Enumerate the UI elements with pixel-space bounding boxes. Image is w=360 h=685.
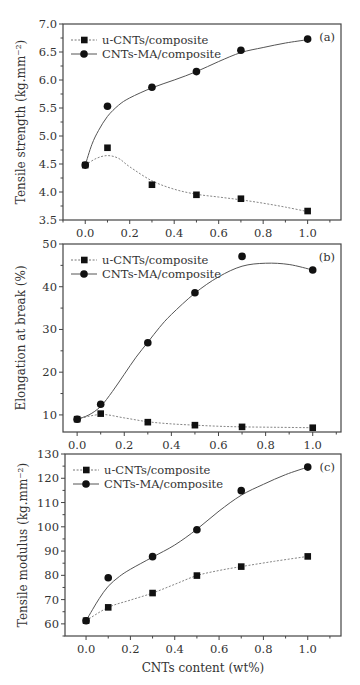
panel-label: (b) bbox=[319, 250, 335, 264]
legend-label: u-CNTs/composite bbox=[102, 253, 209, 267]
y-tick-label: 4.5 bbox=[39, 157, 57, 171]
chart-panel-c: 0.00.20.40.60.81.060708090100110120130Te… bbox=[16, 447, 341, 675]
y-tick-label: 80 bbox=[44, 568, 59, 582]
square-marker bbox=[238, 563, 245, 570]
legend-label: CNTs-MA/composite bbox=[102, 267, 221, 281]
legend-circle-icon bbox=[80, 50, 88, 58]
x-tick-label: 0.6 bbox=[209, 438, 227, 452]
x-tick-label: 0.8 bbox=[254, 226, 272, 240]
y-tick-label: 110 bbox=[37, 496, 59, 510]
x-tick-label: 0.8 bbox=[256, 438, 274, 452]
series-u-cnts-composite bbox=[74, 410, 316, 431]
y-tick-label: 4.0 bbox=[39, 185, 57, 199]
fit-curve bbox=[86, 556, 308, 620]
y-tick-label: 5.0 bbox=[39, 129, 57, 143]
square-marker bbox=[104, 144, 111, 151]
circle-marker bbox=[193, 68, 201, 76]
x-tick-label: 0.4 bbox=[165, 226, 183, 240]
circle-marker bbox=[304, 35, 312, 43]
legend-label: u-CNTs/composite bbox=[104, 463, 211, 477]
square-marker bbox=[193, 192, 200, 199]
legend-label: u-CNTs/composite bbox=[102, 33, 209, 47]
legend: u-CNTs/compositeCNTs-MA/composite bbox=[71, 253, 221, 281]
x-tick-label: 0.6 bbox=[210, 642, 228, 656]
square-marker bbox=[97, 410, 104, 417]
circle-marker bbox=[104, 103, 112, 111]
x-tick-label: 0.0 bbox=[76, 226, 94, 240]
circle-marker bbox=[237, 487, 245, 495]
x-tick-label: 0.2 bbox=[115, 438, 133, 452]
y-axis-label: Elongation at break (%) bbox=[14, 265, 28, 410]
y-tick-label: 60 bbox=[44, 617, 59, 631]
circle-marker bbox=[73, 415, 81, 423]
y-tick-label: 3.5 bbox=[39, 213, 57, 227]
figure: 0.00.20.40.60.81.03.54.04.55.05.56.06.57… bbox=[0, 0, 360, 685]
series-u-cnts-composite bbox=[82, 144, 311, 214]
square-marker bbox=[194, 572, 201, 579]
y-tick-label: 6.5 bbox=[39, 45, 57, 59]
x-tick-label: 0.8 bbox=[254, 642, 272, 656]
chart-panel-b: 0.00.20.40.60.81.01020304050Elongation a… bbox=[14, 237, 341, 452]
fit-curve bbox=[85, 156, 307, 212]
y-tick-label: 100 bbox=[37, 520, 59, 534]
circle-marker bbox=[191, 289, 199, 297]
panel-label: (c) bbox=[320, 460, 335, 474]
square-marker bbox=[238, 195, 245, 202]
circle-marker bbox=[97, 400, 105, 408]
y-tick-label: 130 bbox=[37, 447, 59, 461]
square-marker bbox=[149, 590, 156, 597]
legend-square-icon bbox=[81, 37, 88, 44]
y-tick-label: 120 bbox=[37, 471, 59, 485]
y-tick-label: 10 bbox=[42, 408, 57, 422]
panel-label: (a) bbox=[319, 30, 335, 44]
x-axis-label: CNTs content (wt%) bbox=[142, 661, 265, 675]
y-axis-label: Tensile strength (kg.mm⁻²) bbox=[14, 40, 28, 204]
circle-marker bbox=[104, 574, 112, 582]
square-marker bbox=[149, 181, 156, 188]
legend-label: CNTs-MA/composite bbox=[104, 477, 223, 491]
x-tick-label: 1.0 bbox=[298, 226, 316, 240]
y-tick-label: 5.5 bbox=[39, 101, 57, 115]
circle-marker bbox=[193, 526, 201, 534]
x-tick-label: 0.4 bbox=[162, 438, 180, 452]
chart-panel-a: 0.00.20.40.60.81.03.54.04.55.05.56.06.57… bbox=[14, 17, 341, 240]
square-marker bbox=[304, 208, 311, 215]
legend-circle-icon bbox=[82, 480, 90, 488]
circle-marker bbox=[309, 266, 317, 274]
circle-marker bbox=[304, 463, 312, 471]
y-tick-label: 20 bbox=[42, 365, 57, 379]
legend-label: CNTs-MA/composite bbox=[102, 47, 221, 61]
square-marker bbox=[304, 553, 311, 560]
circle-marker bbox=[144, 339, 152, 347]
circle-marker bbox=[149, 553, 157, 561]
square-marker bbox=[309, 424, 316, 431]
square-marker bbox=[239, 424, 246, 431]
legend-circle-icon bbox=[80, 270, 88, 278]
circle-marker bbox=[82, 617, 90, 625]
legend: u-CNTs/compositeCNTs-MA/composite bbox=[73, 463, 223, 491]
legend-square-icon bbox=[81, 257, 88, 264]
circle-marker bbox=[81, 161, 89, 169]
fit-curve bbox=[77, 263, 313, 419]
x-tick-label: 1.0 bbox=[304, 438, 322, 452]
x-tick-label: 0.0 bbox=[68, 438, 86, 452]
circle-marker bbox=[237, 47, 245, 55]
x-tick-label: 0.6 bbox=[210, 226, 228, 240]
square-marker bbox=[145, 419, 152, 426]
y-tick-label: 30 bbox=[42, 322, 57, 336]
x-tick-label: 0.4 bbox=[166, 642, 184, 656]
y-tick-label: 7.0 bbox=[39, 17, 57, 31]
series-u-cnts-composite bbox=[83, 553, 311, 624]
circle-marker bbox=[238, 253, 246, 261]
y-tick-label: 90 bbox=[44, 544, 59, 558]
legend-square-icon bbox=[83, 467, 90, 474]
circle-marker bbox=[148, 83, 156, 91]
x-tick-label: 1.0 bbox=[299, 642, 317, 656]
y-tick-label: 70 bbox=[44, 593, 59, 607]
legend: u-CNTs/compositeCNTs-MA/composite bbox=[71, 33, 221, 61]
x-tick-label: 0.0 bbox=[77, 642, 95, 656]
y-tick-label: 50 bbox=[42, 237, 57, 251]
y-tick-label: 40 bbox=[42, 280, 57, 294]
x-tick-label: 0.2 bbox=[121, 226, 139, 240]
y-tick-label: 6.0 bbox=[39, 73, 57, 87]
